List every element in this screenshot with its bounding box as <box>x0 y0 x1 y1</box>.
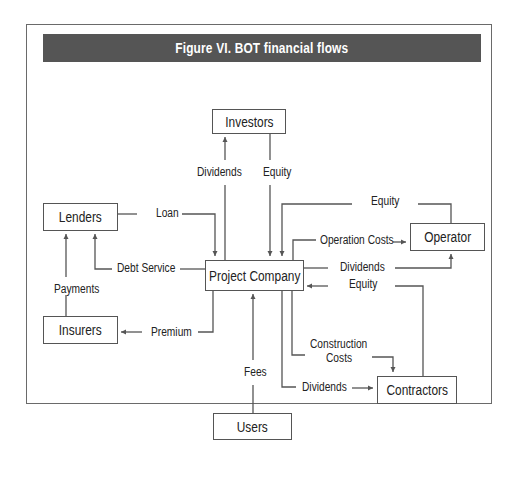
line-operation-costs-left <box>293 240 316 260</box>
node-investors: Investors <box>212 109 286 134</box>
arrow-construction-costs-right <box>372 357 393 372</box>
label-investors-dividends: Dividends <box>197 165 242 179</box>
label-premium: Premium <box>151 325 192 339</box>
label-contractors-dividends: Dividends <box>302 380 347 394</box>
label-loan: Loan <box>156 206 179 220</box>
line-premium-right <box>198 290 213 332</box>
node-users-label: Users <box>237 419 268 435</box>
line-construction-costs-left <box>292 290 305 355</box>
label-operation-costs: Operation Costs <box>320 233 394 247</box>
node-lenders: Lenders <box>43 203 118 231</box>
node-users: Users <box>213 413 292 440</box>
label-operator-dividends: Dividends <box>340 260 385 274</box>
node-operator: Operator <box>410 223 485 251</box>
label-investors-equity: Equity <box>263 165 291 179</box>
node-lenders-label: Lenders <box>59 209 102 225</box>
arrow-loan-right <box>182 214 215 256</box>
line-contractors-equity-right <box>395 286 423 376</box>
label-operator-equity: Equity <box>371 194 399 208</box>
node-contractors: Contractors <box>377 376 457 404</box>
node-project-company-label: Project Company <box>209 268 300 284</box>
node-insurers-label: Insurers <box>59 322 102 338</box>
label-debt-service: Debt Service <box>117 261 175 275</box>
node-investors-label: Investors <box>225 114 273 130</box>
arrow-operator-dividends-right <box>395 254 451 268</box>
label-payments: Payments <box>54 282 99 296</box>
label-construction-costs-line2: Costs <box>326 351 352 365</box>
line-operator-equity-right <box>418 204 451 223</box>
label-contractors-equity: Equity <box>349 277 377 291</box>
node-operator-label: Operator <box>424 229 471 245</box>
node-contractors-label: Contractors <box>386 382 448 398</box>
node-insurers: Insurers <box>43 316 118 344</box>
node-project-company: Project Company <box>205 260 304 291</box>
line-contractors-dividends-left <box>282 290 296 387</box>
arrow-debt-service-left <box>95 234 112 269</box>
label-construction-costs-line1: Construction <box>310 337 367 351</box>
label-fees: Fees <box>244 365 267 379</box>
